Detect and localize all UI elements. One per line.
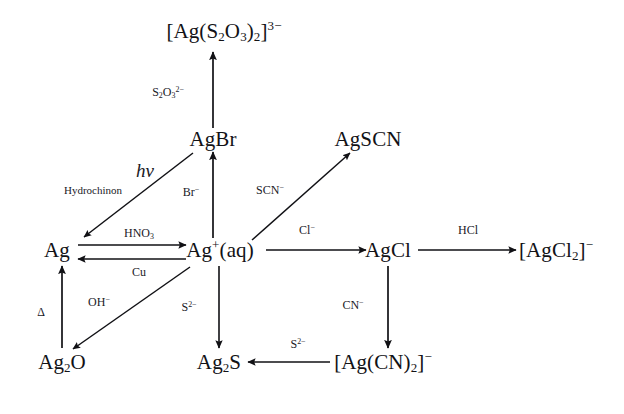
- arrow-layer: [0, 0, 624, 414]
- reagent-label-light: hν: [136, 161, 154, 180]
- reaction-diagram-canvas: [Ag(S2O3)2]3− AgBr AgSCN Ag Ag+(aq) AgCl…: [0, 0, 624, 414]
- reagent-label-bromide: Br−: [183, 186, 199, 198]
- node-agcl: AgCl: [365, 240, 411, 261]
- reagent-label-thiosulfate: S2O32−: [152, 86, 184, 98]
- reagent-label-sulfide-from-agcn2: S2−: [290, 338, 305, 350]
- reagent-label-cyanide: CN−: [342, 299, 363, 311]
- reagent-label-heat: Δ: [37, 306, 45, 318]
- reagent-label-chloride: Cl−: [299, 224, 315, 236]
- node-dichloroargentate: [AgCl2]−: [519, 240, 593, 261]
- node-ag2s: Ag2S: [197, 352, 241, 373]
- node-ag-plus-aq: Ag+(aq): [186, 240, 254, 261]
- reagent-label-thiocyanate: SCN−: [256, 184, 284, 196]
- reagent-label-hydrochinon: Hydrochinon: [64, 185, 122, 196]
- node-agbr: AgBr: [189, 129, 236, 150]
- reagent-label-sulfide-from-agaq: S2−: [181, 301, 196, 313]
- reagent-label-hydroxide: OH−: [88, 296, 110, 308]
- node-ag: Ag: [44, 240, 70, 261]
- node-thiosulfate-complex: [Ag(S2O3)2]3−: [166, 21, 281, 42]
- node-dicyanoargentate: [Ag(CN)2]−: [334, 352, 432, 373]
- reagent-label-nitric-acid: HNO3: [124, 227, 154, 239]
- reagent-label-copper: Cu: [132, 266, 146, 278]
- node-agscn: AgSCN: [334, 129, 401, 150]
- node-ag2o: Ag2O: [38, 352, 86, 373]
- reagent-label-hydrochloric-acid: HCl: [458, 224, 478, 236]
